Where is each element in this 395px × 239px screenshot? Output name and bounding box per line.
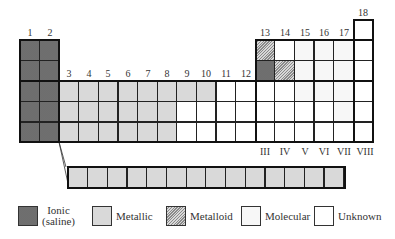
roman-label-VIII: VIII xyxy=(353,147,377,157)
cell-row2-group18-unknown xyxy=(353,40,374,61)
cell-row4-group14-unknown xyxy=(274,81,295,102)
legend-unknown: Unknown xyxy=(314,204,381,228)
roman-label-V: V xyxy=(295,147,315,157)
group-label-13: 13 xyxy=(255,28,275,38)
group-label-6: 6 xyxy=(118,69,138,79)
cell-row6-group6-metallic xyxy=(118,122,139,143)
group-label-4: 4 xyxy=(79,69,99,79)
legend-label-metalloid: Metalloid xyxy=(190,211,233,222)
f-block-cell-5 xyxy=(146,167,167,189)
cell-row5-group13-unknown xyxy=(255,101,276,122)
group-label-14: 14 xyxy=(275,28,295,38)
cell-row6-group15-unknown xyxy=(294,122,315,143)
cell-row5-group3-metallic xyxy=(59,101,80,122)
group-label-15: 15 xyxy=(295,28,315,38)
legend-swatch-molecular xyxy=(241,206,261,226)
f-block-cell-4 xyxy=(127,167,148,189)
cell-row2-group14-unknown xyxy=(274,40,295,61)
cell-row6-group10-unknown xyxy=(196,122,217,143)
group-label-16: 16 xyxy=(314,28,334,38)
group-label-17: 17 xyxy=(334,28,354,38)
cell-row4-group12-unknown xyxy=(235,81,256,102)
cell-row5-group4-metallic xyxy=(78,101,99,122)
legend-metalloid: Metalloid xyxy=(166,204,233,228)
group-label-8: 8 xyxy=(157,69,177,79)
cell-row3-group16-molecular xyxy=(314,60,335,81)
cell-row6-group8-metallic xyxy=(157,122,178,143)
f-block-cell-13 xyxy=(304,167,325,189)
f-block-cell-3 xyxy=(107,167,128,189)
cell-row4-group9-metallic xyxy=(176,81,197,102)
cell-row5-group11-unknown xyxy=(216,101,237,122)
cell-row4-group2-ionic xyxy=(39,81,60,102)
roman-label-VI: VI xyxy=(314,147,334,157)
legend-label-ionic-line2: (saline) xyxy=(42,216,75,227)
cell-row5-group5-metallic xyxy=(98,101,119,122)
f-block-cell-8 xyxy=(205,167,226,189)
group-label-10: 10 xyxy=(196,69,216,79)
cell-row5-group7-metallic xyxy=(137,101,158,122)
cell-row6-group11-unknown xyxy=(216,122,237,143)
cell-row6-group3-metallic xyxy=(59,122,80,143)
group-label-11: 11 xyxy=(216,69,236,79)
group-label-18: 18 xyxy=(353,8,373,18)
cell-row6-group7-metallic xyxy=(137,122,158,143)
cell-row4-group16-molecular xyxy=(314,81,335,102)
cell-row5-group2-ionic xyxy=(39,101,60,122)
cell-row3-group13-ionic xyxy=(255,60,276,81)
cell-row5-group18-unknown xyxy=(353,101,374,122)
group-label-3: 3 xyxy=(59,69,79,79)
cell-row5-group17-molecular xyxy=(333,101,354,122)
cell-row1-group18-unknown xyxy=(353,20,374,41)
cell-row5-group12-unknown xyxy=(235,101,256,122)
cell-row3-group15-molecular xyxy=(294,60,315,81)
cell-row5-group6-metallic xyxy=(118,101,139,122)
legend-label-ionic: Ionic (saline) xyxy=(42,205,75,227)
cell-row4-group8-metallic xyxy=(157,81,178,102)
cell-row5-group10-unknown xyxy=(196,101,217,122)
f-block-cell-12 xyxy=(284,167,305,189)
f-block-cell-10 xyxy=(245,167,266,189)
cell-row5-group9-unknown xyxy=(176,101,197,122)
cell-row6-group5-metallic xyxy=(98,122,119,143)
f-block-cell-9 xyxy=(225,167,246,189)
cell-row6-group12-unknown xyxy=(235,122,256,143)
roman-label-III: III xyxy=(255,147,275,157)
cell-row4-group7-metallic xyxy=(137,81,158,102)
cell-row2-group1-ionic xyxy=(20,40,41,61)
cell-row6-group13-unknown xyxy=(255,122,276,143)
group-label-2: 2 xyxy=(40,28,60,38)
legend-ionic: Ionic (saline) xyxy=(18,204,75,228)
f-block-cell-14 xyxy=(324,167,345,189)
legend-molecular: Molecular xyxy=(241,204,310,228)
cell-row4-group3-metallic xyxy=(59,81,80,102)
f-block-cell-2 xyxy=(87,167,108,189)
cell-row4-group13-unknown xyxy=(255,81,276,102)
legend-label-unknown: Unknown xyxy=(338,211,381,222)
cell-row3-group1-ionic xyxy=(20,60,41,81)
group-label-12: 12 xyxy=(236,69,256,79)
cell-row2-group17-molecular xyxy=(333,40,354,61)
roman-label-IV: IV xyxy=(275,147,295,157)
f-block-cell-7 xyxy=(186,167,207,189)
cell-row2-group15-molecular xyxy=(294,40,315,61)
legend-swatch-metalloid xyxy=(166,206,186,226)
f-block-cell-1 xyxy=(68,167,89,189)
cell-row5-group8-metallic xyxy=(157,101,178,122)
f-block-cell-6 xyxy=(166,167,187,189)
legend-swatch-unknown xyxy=(314,206,334,226)
legend-label-metallic: Metallic xyxy=(116,211,153,222)
group-label-7: 7 xyxy=(138,69,158,79)
cell-row3-group14-metalloid xyxy=(274,60,295,81)
cell-row4-group4-metallic xyxy=(78,81,99,102)
cell-row3-group18-unknown xyxy=(353,60,374,81)
group-label-9: 9 xyxy=(177,69,197,79)
cell-row2-group2-ionic xyxy=(39,40,60,61)
cell-row5-group1-ionic xyxy=(20,101,41,122)
cell-row4-group15-molecular xyxy=(294,81,315,102)
roman-label-VII: VII xyxy=(334,147,354,157)
f-block-cell-11 xyxy=(265,167,286,189)
legend-swatch-ionic xyxy=(18,206,38,226)
cell-row3-group17-molecular xyxy=(333,60,354,81)
cell-row2-group16-molecular xyxy=(314,40,335,61)
